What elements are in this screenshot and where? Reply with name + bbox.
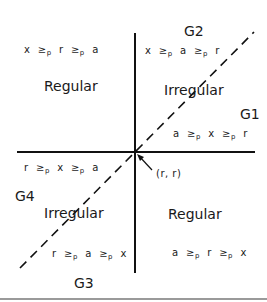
point-label: (r, r): [156, 168, 181, 179]
bottom-border: [0, 298, 267, 300]
label-irregular-top-right: Irregular: [164, 82, 224, 98]
label-g2: G2: [184, 23, 204, 39]
relation-g1: a ≥p x ≥p r: [173, 128, 248, 141]
label-irregular-bottom-left: Irregular: [44, 205, 104, 221]
relation-g4: r ≥p x ≥p a: [24, 162, 99, 175]
label-g3: G3: [74, 275, 94, 291]
relation-g2: x ≥p a ≥p r: [145, 45, 220, 58]
label-regular-bottom-right: Regular: [168, 206, 222, 222]
label-regular-top-left: Regular: [44, 78, 98, 94]
relation-bottom-right: a ≥p r ≥p x: [172, 247, 247, 260]
relation-top-left: x ≥p r ≥p a: [24, 44, 99, 57]
label-g4: G4: [15, 188, 35, 204]
relation-g3: r ≥p a ≥p x: [52, 248, 127, 261]
diagonal-dashed-line: [20, 32, 254, 268]
label-g1: G1: [240, 106, 260, 122]
